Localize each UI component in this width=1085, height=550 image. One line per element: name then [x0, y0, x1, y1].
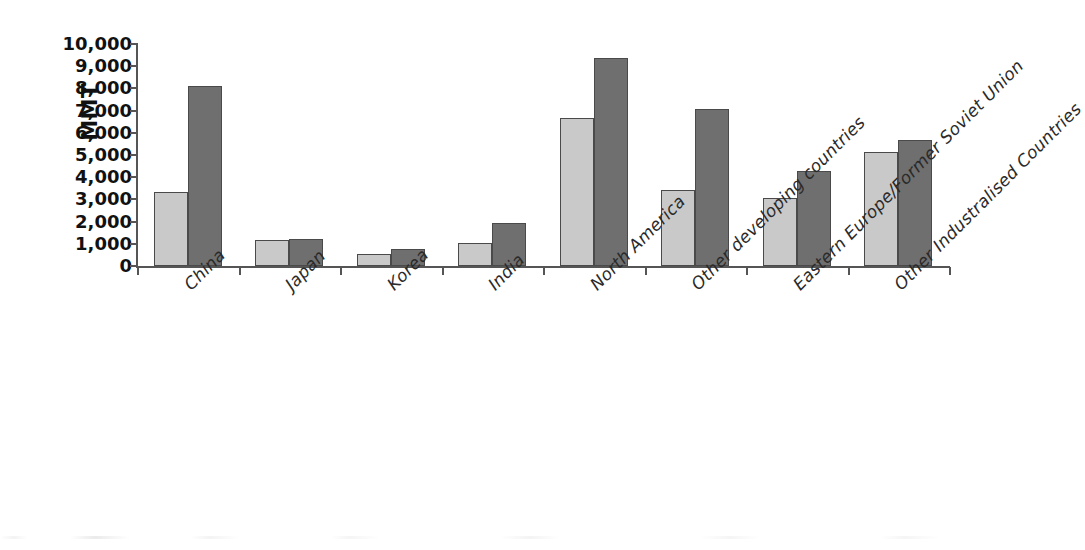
bar-group [560, 44, 628, 266]
bar [188, 86, 222, 266]
y-axis-tick-marks [0, 44, 140, 266]
bar [594, 58, 628, 266]
bar [255, 240, 289, 266]
x-axis-tick-mark [949, 267, 951, 275]
x-axis-tick-mark [340, 267, 342, 275]
x-axis-tick-mark [137, 267, 139, 275]
bar [357, 254, 391, 266]
bar-group [255, 44, 323, 266]
bar-group [357, 44, 425, 266]
x-axis-tick-mark [746, 267, 748, 275]
bar-group [154, 44, 222, 266]
bar-group [458, 44, 526, 266]
x-axis-tick-mark [239, 267, 241, 275]
x-axis-tick-mark [543, 267, 545, 275]
bar [560, 118, 594, 266]
x-axis-tick-mark [442, 267, 444, 275]
bar [154, 192, 188, 266]
x-axis-tick-mark [848, 267, 850, 275]
scan-artifact [0, 536, 988, 539]
bar [458, 243, 492, 266]
bar-group [661, 44, 729, 266]
x-axis-tick-mark [645, 267, 647, 275]
